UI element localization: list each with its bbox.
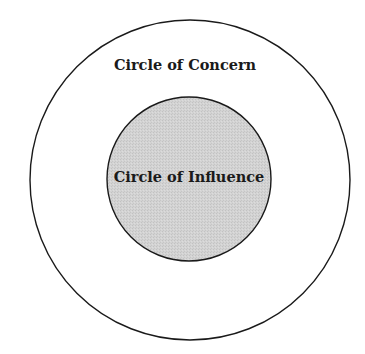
circle-of-influence-label: Circle of Influence	[114, 168, 265, 185]
circle-of-concern-label: Circle of Concern	[114, 56, 257, 73]
concentric-circles-diagram: Circle of Concern Circle of Influence	[0, 0, 365, 354]
